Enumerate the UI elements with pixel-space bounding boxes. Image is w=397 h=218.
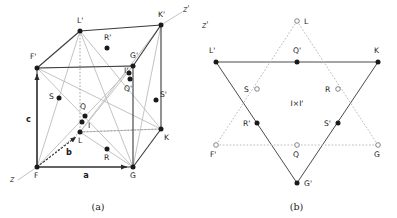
panel-b-caption: (b)	[196, 201, 397, 212]
vector-b-label: b	[66, 147, 72, 157]
site-marker-Fp	[214, 143, 219, 148]
site-marker-I	[80, 120, 85, 125]
site-marker-Sp	[336, 121, 341, 126]
site-label-L: L	[78, 136, 83, 145]
site-label-Qp: Q'	[124, 84, 132, 93]
site-marker-Sp	[154, 98, 159, 103]
vector-a-label: a	[83, 170, 89, 180]
site-label-Sp: S'	[160, 90, 167, 99]
site-label-G: G	[130, 171, 136, 180]
site-label-Qp: Q'	[293, 46, 301, 55]
site-marker-F	[35, 165, 40, 170]
site-marker-S	[255, 87, 260, 92]
site-marker-Gp	[295, 181, 300, 186]
site-label-Rp: R'	[243, 119, 250, 128]
site-label-S: S	[49, 92, 54, 101]
site-label-I: I	[88, 121, 90, 130]
site-marker-L	[295, 19, 300, 24]
site-label-R: R	[325, 85, 331, 94]
site-label-G: G	[374, 150, 380, 159]
cube-edges-solid	[37, 25, 161, 167]
site-label-R: R	[104, 153, 110, 162]
site-label-Kp: K'	[158, 10, 165, 19]
construction-lines-light	[37, 25, 161, 167]
figure-root: a b c z z' L'K'R'G'I'Q'S'F'SQILRKFG (a)	[0, 0, 397, 218]
site-label-Fp: F'	[30, 52, 36, 61]
site-label-Q: Q	[80, 102, 86, 111]
site-marker-Qp	[295, 60, 300, 65]
site-label-Gp: G'	[130, 51, 138, 60]
site-label-Fp: F'	[210, 150, 216, 159]
vector-c-label: c	[26, 114, 31, 124]
axis-z-prime-label: z'	[182, 5, 189, 14]
site-label-Q: Q	[293, 150, 299, 159]
site-marker-Rp	[105, 46, 110, 51]
site-marker-S	[57, 96, 62, 101]
site-marker-K	[376, 60, 381, 65]
site-marker-R	[336, 87, 341, 92]
site-label-S: S	[244, 85, 249, 94]
site-marker-Lp	[214, 60, 219, 65]
site-label-K: K	[374, 46, 380, 55]
site-marker-Kp	[159, 23, 164, 28]
site-marker-Fp	[35, 66, 40, 71]
site-label-Sp: S'	[324, 119, 331, 128]
axis-rays	[18, 12, 182, 180]
site-marker-Rp	[255, 121, 260, 126]
site-label-Gp: G'	[304, 179, 312, 188]
axis-z-prime-label: z'	[201, 21, 208, 30]
site-marker-Q	[295, 143, 300, 148]
site-marker-L	[78, 130, 83, 135]
triangle-down-solid	[216, 62, 378, 183]
axis-z-label: z	[9, 175, 15, 184]
site-marker-Gp	[131, 64, 136, 69]
site-marker-Q	[83, 114, 88, 119]
panel-a-caption: (a)	[0, 201, 196, 212]
site-marker-K	[159, 127, 164, 132]
site-marker-Lp	[78, 29, 83, 34]
site-label-L: L	[304, 17, 309, 26]
panel-a-cube-diagram: a b c z z' L'K'R'G'I'Q'S'F'SQILRKFG (a)	[0, 0, 196, 218]
site-label-Lp: L'	[209, 46, 215, 55]
site-marker-G	[131, 165, 136, 170]
centre-site-label: I×I'	[291, 99, 304, 108]
panel-b-svg: z' I×I' LL'Q'KSRR'S'F'QGG'	[196, 0, 397, 200]
panel-a-svg: a b c z z' L'K'R'G'I'Q'S'F'SQILRKFG	[0, 0, 196, 200]
panel-b-star-diagram: z' I×I' LL'Q'KSRR'S'F'QGG' (b)	[196, 0, 397, 218]
site-marker-Ip	[128, 77, 133, 82]
site-label-Rp: R'	[104, 33, 111, 42]
triangle-up-dotted	[216, 21, 378, 145]
panel-a-point-group: L'K'R'G'I'Q'S'F'SQILRKFG	[30, 10, 170, 180]
site-label-K: K	[164, 133, 170, 142]
site-label-F: F	[34, 171, 38, 180]
site-marker-R	[105, 147, 110, 152]
site-marker-Qp	[127, 71, 132, 76]
site-label-Lp: L'	[77, 16, 83, 25]
site-marker-G	[376, 143, 381, 148]
